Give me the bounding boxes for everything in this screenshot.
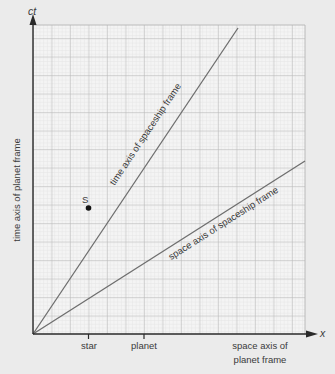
planet-space-axis-label-line2: planet frame	[234, 354, 287, 365]
tick-label-star: star	[81, 340, 97, 351]
tick-label-planet: planet	[131, 340, 157, 351]
spacetime-diagram: ct x time axis of planet frame space axi…	[0, 0, 335, 374]
event-s-label: S	[82, 194, 88, 205]
graph-grid	[33, 25, 305, 334]
planet-space-axis-label-line1: space axis of	[232, 340, 288, 351]
planet-time-axis-label: time axis of planet frame	[11, 138, 22, 242]
event-s-dot	[86, 205, 92, 211]
x-axis-symbol: x	[319, 327, 326, 339]
x-axis-arrow-icon	[306, 331, 318, 338]
ct-axis-symbol: ct	[28, 5, 37, 17]
